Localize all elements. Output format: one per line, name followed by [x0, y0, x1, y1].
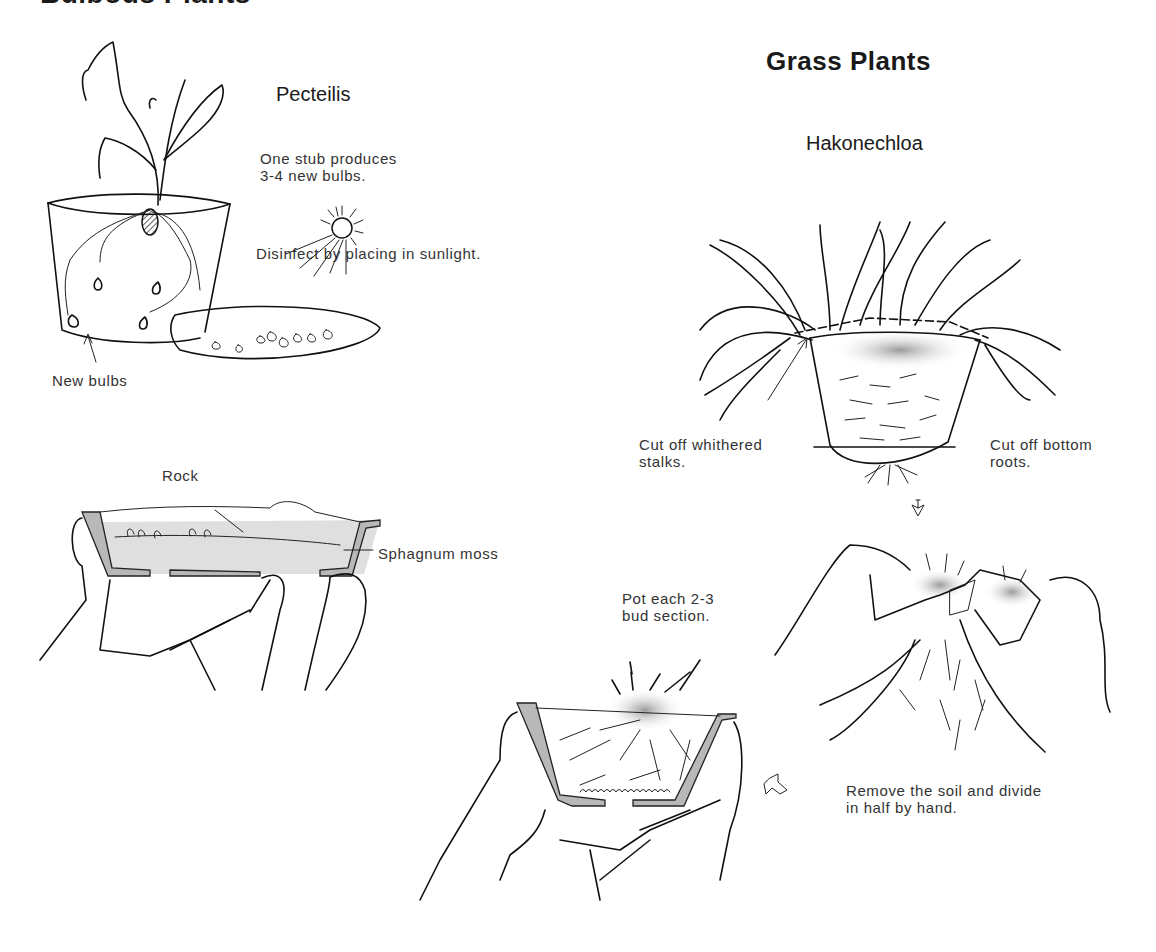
potted-section-drawing	[420, 660, 742, 900]
sphagnum-pot-drawing	[40, 502, 380, 690]
illustrations	[0, 0, 1156, 952]
sun-icon	[286, 206, 363, 276]
divided-plant-drawing	[775, 545, 1110, 752]
hakonechloa-drawing	[700, 222, 1060, 485]
pecteilis-pot-drawing	[48, 42, 230, 362]
arrow-down-left-icon	[764, 774, 787, 794]
drying-plate-drawing	[171, 306, 380, 358]
arrow-down-icon	[912, 500, 924, 516]
